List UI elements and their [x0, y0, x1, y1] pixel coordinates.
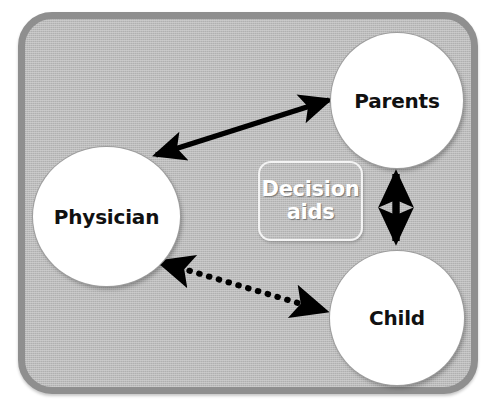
- decision-aids-label-line1: Decision: [262, 178, 360, 201]
- decision-aids-label-line2: aids: [287, 201, 335, 224]
- node-parents-label: Parents: [354, 89, 439, 113]
- node-child[interactable]: Child: [330, 251, 464, 385]
- node-physician-label: Physician: [54, 205, 159, 229]
- scan-artifact-text: [10, 0, 230, 3]
- node-child-label: Child: [369, 306, 425, 330]
- decision-aids-callout[interactable]: Decision aids: [258, 161, 363, 241]
- node-parents[interactable]: Parents: [331, 33, 463, 168]
- diagram-canvas: Physician Parents Child Decision aids: [0, 0, 496, 406]
- node-physician[interactable]: Physician: [33, 147, 180, 286]
